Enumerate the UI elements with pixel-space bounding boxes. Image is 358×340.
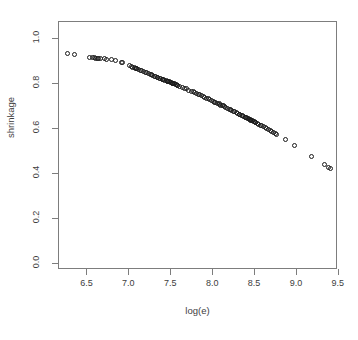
chart-root: 0.00.20.40.60.81.0 6.57.07.58.08.59.09.5… (0, 0, 358, 340)
data-point (328, 166, 333, 171)
y-tick-mark (52, 173, 58, 174)
y-tick-mark (52, 263, 58, 264)
data-point (113, 58, 118, 63)
scatter-points-layer (59, 22, 336, 268)
x-tick-label: 9.0 (276, 278, 316, 288)
y-tick-label: 0.2 (31, 204, 41, 230)
data-point (65, 51, 70, 56)
y-tick-mark (52, 38, 58, 39)
x-tick-mark (86, 269, 87, 275)
x-tick-mark (212, 269, 213, 275)
x-tick-label: 7.0 (108, 278, 148, 288)
data-point (283, 137, 288, 142)
plot-area (58, 21, 337, 269)
data-point (292, 143, 297, 148)
data-point (72, 52, 77, 57)
x-tick-mark (128, 269, 129, 275)
x-tick-mark (254, 269, 255, 275)
data-point (120, 60, 125, 65)
y-tick-label: 1.0 (31, 24, 41, 50)
x-axis-title: log(e) (58, 305, 337, 316)
y-tick-mark (52, 83, 58, 84)
data-point (247, 117, 252, 122)
x-tick-label: 9.5 (318, 278, 358, 288)
x-tick-label: 6.5 (66, 278, 106, 288)
y-axis-title: shrinkage (5, 68, 16, 168)
x-tick-label: 8.0 (192, 278, 232, 288)
y-tick-label: 0.6 (31, 114, 41, 140)
data-point (274, 132, 279, 137)
x-tick-mark (296, 269, 297, 275)
x-tick-label: 7.5 (150, 278, 190, 288)
data-point (309, 154, 314, 159)
x-tick-mark (338, 269, 339, 275)
y-tick-label: 0.0 (31, 249, 41, 275)
y-tick-mark (52, 218, 58, 219)
y-tick-label: 0.8 (31, 69, 41, 95)
x-tick-label: 8.5 (234, 278, 274, 288)
y-tick-label: 0.4 (31, 159, 41, 185)
y-tick-mark (52, 128, 58, 129)
x-tick-mark (170, 269, 171, 275)
data-point (134, 66, 139, 71)
